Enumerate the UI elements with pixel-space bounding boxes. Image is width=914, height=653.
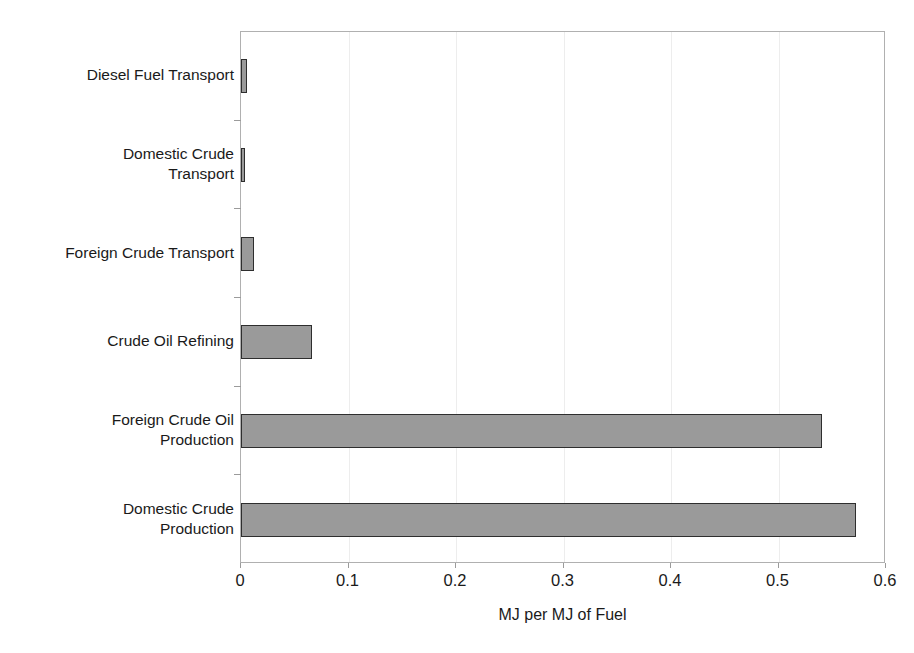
x-axis-tick <box>455 563 456 568</box>
bar <box>241 503 856 537</box>
x-axis-tick <box>240 563 241 568</box>
x-axis-tick-label: 0.2 <box>415 571 495 590</box>
y-axis-labels: Diesel Fuel TransportDomestic Crude Tran… <box>0 31 234 563</box>
x-axis-title: MJ per MJ of Fuel <box>240 606 885 624</box>
y-axis-category-label: Domestic Crude Production <box>0 499 234 539</box>
y-axis-tick <box>234 386 241 387</box>
y-axis-category-label: Crude Oil Refining <box>0 331 234 351</box>
y-axis-category-label: Diesel Fuel Transport <box>0 65 234 85</box>
bar <box>241 325 312 359</box>
x-axis-tick <box>348 563 349 568</box>
y-axis-tick <box>234 120 241 121</box>
x-axis-tick-label: 0.4 <box>630 571 710 590</box>
y-axis-category-label: Foreign Crude Transport <box>0 243 234 263</box>
x-axis-tick-label: 0.5 <box>738 571 818 590</box>
y-axis-tick <box>234 474 241 475</box>
bars-layer <box>241 32 884 562</box>
x-axis-tick-label: 0.6 <box>845 571 914 590</box>
y-axis-tick <box>234 297 241 298</box>
x-axis-tick-label: 0.1 <box>308 571 388 590</box>
bar <box>241 237 254 271</box>
x-axis-tick-label: 0 <box>200 571 280 590</box>
bar <box>241 414 822 448</box>
x-axis-tick <box>563 563 564 568</box>
y-axis-category-label: Foreign Crude Oil Production <box>0 410 234 450</box>
y-axis-category-label: Domestic Crude Transport <box>0 144 234 184</box>
y-axis-tick <box>234 208 241 209</box>
x-axis-tick <box>885 563 886 568</box>
bar-chart: Diesel Fuel TransportDomestic Crude Tran… <box>0 0 914 653</box>
plot-area <box>240 31 885 563</box>
x-axis-tick-label: 0.3 <box>523 571 603 590</box>
bar <box>241 148 245 182</box>
bar <box>241 59 247 93</box>
x-axis-tick <box>670 563 671 568</box>
x-axis-tick <box>778 563 779 568</box>
